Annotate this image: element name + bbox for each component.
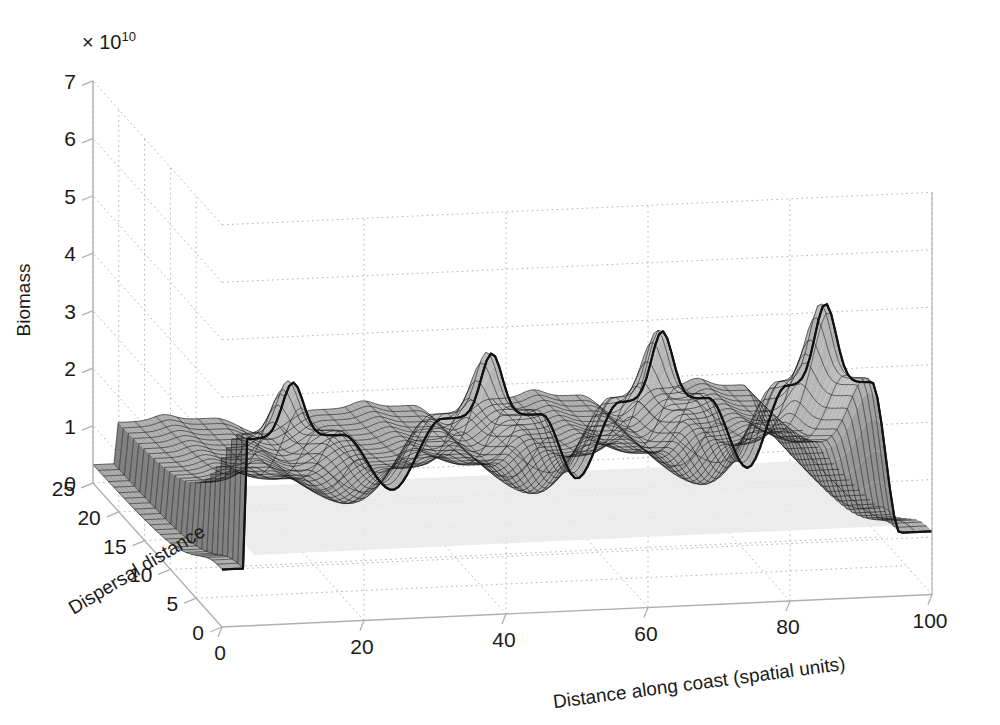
z-axis-exponent: × 1010 [82,29,136,53]
axis-labels-layer: Biomass Dispersal distance Distance alon… [0,0,1000,725]
y-axis-label: Dispersal distance [65,520,209,618]
x-axis-label: Distance along coast (spatial units) [552,653,847,712]
figure-3d-surface-plot: 012345670510152025020406080100 Biomass D… [0,0,1000,725]
z-axis-label: Biomass [13,264,34,337]
